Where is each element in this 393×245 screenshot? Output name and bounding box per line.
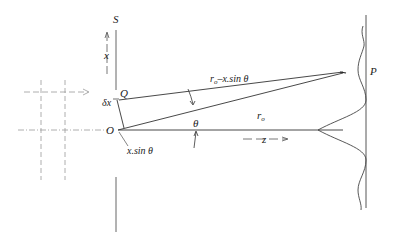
label-s: S (113, 14, 119, 25)
perpendicular-line (117, 100, 124, 128)
label-r0-minus-xsin: ro–x.sin θ (210, 74, 248, 86)
label-o: O (106, 125, 114, 136)
label-q: Q (120, 88, 128, 99)
diffraction-diagram: S x Q δx O x.sin θ θ ro–x.sin θ ro z P (0, 0, 393, 245)
label-delta-x: δx (102, 98, 111, 108)
x-sin-leader (119, 132, 128, 146)
label-x: x (104, 50, 109, 61)
intensity-curve (318, 26, 366, 210)
label-theta: θ (193, 118, 198, 129)
label-r0: ro (257, 110, 265, 123)
label-p: P (370, 66, 377, 77)
label-z: z (262, 134, 266, 145)
label-x-sin-theta: x.sin θ (127, 146, 153, 156)
